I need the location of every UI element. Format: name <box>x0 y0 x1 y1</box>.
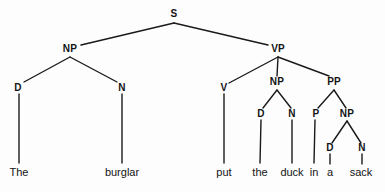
tree-edge <box>278 57 329 76</box>
tree-leaf-w-in: in <box>310 167 319 178</box>
tree-node-np3: NP <box>340 109 354 119</box>
tree-node-n2: N <box>288 109 295 119</box>
tree-node-np2: NP <box>270 77 284 87</box>
tree-edge <box>277 57 278 76</box>
tree-node-s: S <box>171 9 178 19</box>
tree-leaf-w-duck: duck <box>280 167 303 178</box>
tree-edge <box>174 23 268 45</box>
tree-leaf-w-the1: The <box>10 167 29 178</box>
tree-leaf-w-the2: the <box>252 167 267 178</box>
tree-leaf-w-burglar: burglar <box>105 167 139 178</box>
tree-edge <box>334 90 346 108</box>
tree-node-d3: D <box>326 143 333 153</box>
tree-edge-layer <box>0 0 385 192</box>
tree-leaf-w-sack: sack <box>350 167 373 178</box>
tree-edge <box>260 120 261 163</box>
tree-edge <box>70 57 117 82</box>
tree-node-d2: D <box>257 109 264 119</box>
tree-leaf-w-put: put <box>216 167 231 178</box>
tree-edge <box>81 23 174 45</box>
tree-node-vp: VP <box>271 44 285 54</box>
tree-node-d1: D <box>14 83 21 93</box>
tree-edge <box>332 121 347 143</box>
tree-edge <box>24 57 70 82</box>
syntax-tree-diagram: SNPVPDNVNPPPDNPNPDN Theburglarputtheduck… <box>0 0 385 192</box>
tree-leaf-w-a: a <box>327 167 333 178</box>
tree-edge <box>277 90 291 108</box>
tree-edge <box>347 121 361 143</box>
tree-node-np1: NP <box>63 44 77 54</box>
tree-edge <box>263 90 277 108</box>
tree-node-n3: N <box>358 143 365 153</box>
tree-node-pp: PP <box>327 77 341 87</box>
tree-node-p: P <box>313 109 320 119</box>
tree-node-v: V <box>221 83 228 93</box>
tree-edge <box>318 90 334 108</box>
tree-edge <box>314 120 315 163</box>
tree-node-n1: N <box>118 83 125 93</box>
